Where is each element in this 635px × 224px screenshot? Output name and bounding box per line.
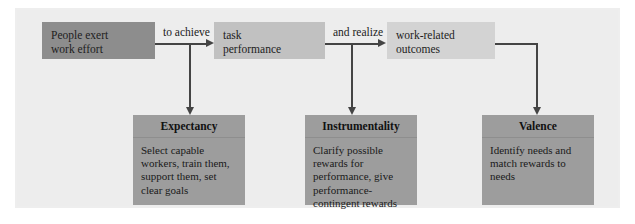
concept-box-instrumentality-title: Instrumentality [305,115,417,138]
concept-box-instrumentality-line-5: contingent rewards [313,197,410,210]
arrowhead-to-expectancy-icon [186,107,194,115]
concept-box-expectancy-line-3: support them, set [141,170,238,183]
concept-box-instrumentality: Instrumentality Clarify possible rewards… [305,115,417,205]
concept-box-valence: Valence Identify needs and match rewards… [482,115,594,205]
process-box-task-line-1: task [223,29,316,43]
process-box-work-related-outcomes: work-related outcomes [387,22,495,59]
connector-line-to-valence [536,43,538,109]
concept-box-valence-line-3: needs [490,170,587,183]
concept-box-expectancy-line-4: clear goals [141,184,238,197]
concept-box-expectancy-line-1: Select capable [141,144,238,157]
connector-line-to-expectancy [189,43,191,109]
process-box-effort-line-1: People exert [51,29,146,43]
concept-box-expectancy-body: Select capable workers, train them, supp… [133,138,245,197]
expectancy-theory-diagram: People exert work effort task performanc… [0,0,635,224]
concept-box-instrumentality-line-4: performance- [313,184,410,197]
concept-box-instrumentality-line-2: rewards for [313,157,410,170]
arrowhead-to-instrumentality-icon [348,107,356,115]
connector-line-to-instrumentality [351,43,353,109]
concept-box-valence-title: Valence [482,115,594,138]
concept-box-instrumentality-body: Clarify possible rewards for performance… [305,138,417,210]
connector-line-outcomes-elbow [495,43,538,45]
arrowhead-to-valence-icon [533,107,541,115]
arrowhead-task-to-outcomes-icon [378,39,386,47]
connector-line-effort-to-task [155,43,207,45]
concept-box-valence-line-1: Identify needs and [490,144,587,157]
concept-box-expectancy-title: Expectancy [133,115,245,138]
arrowhead-effort-to-task-icon [206,39,214,47]
process-box-outcomes-line-2: outcomes [396,43,486,57]
connector-label-to-achieve: to achieve [163,26,210,38]
concept-box-expectancy: Expectancy Select capable workers, train… [133,115,245,205]
connector-label-and-realize: and realize [333,26,383,38]
process-box-effort: People exert work effort [42,22,155,59]
process-box-effort-line-2: work effort [51,43,146,57]
concept-box-valence-line-2: match rewards to [490,157,587,170]
concept-box-instrumentality-line-3: performance, give [313,170,410,183]
concept-box-expectancy-line-2: workers, train them, [141,157,238,170]
concept-box-valence-body: Identify needs and match rewards to need… [482,138,594,184]
concept-box-instrumentality-line-1: Clarify possible [313,144,410,157]
process-box-outcomes-line-1: work-related [396,29,486,43]
process-box-task-performance: task performance [214,22,325,59]
process-box-task-line-2: performance [223,43,316,57]
